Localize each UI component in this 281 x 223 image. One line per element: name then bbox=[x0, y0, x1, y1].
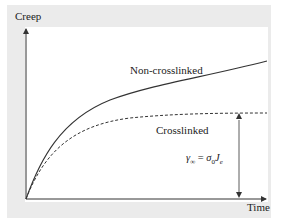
y-axis-label: Creep bbox=[15, 10, 41, 22]
crosslinked-curve bbox=[26, 113, 267, 199]
non-crosslinked-curve bbox=[26, 61, 267, 199]
non-crosslinked-label: Non-crosslinked bbox=[130, 64, 203, 76]
j-subscript: e bbox=[220, 158, 223, 166]
crosslinked-label: Crosslinked bbox=[156, 124, 209, 136]
x-axis-label: Time bbox=[247, 201, 270, 213]
creep-diagram bbox=[0, 0, 281, 223]
equilibrium-formula: γ∞ = σ0Je bbox=[186, 152, 223, 166]
equals-sign: = bbox=[195, 152, 206, 163]
